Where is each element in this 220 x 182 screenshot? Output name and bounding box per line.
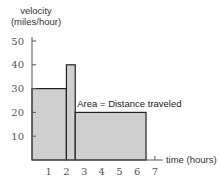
x-axis-label: time (hours): [166, 154, 217, 165]
y-tick-label: 20: [11, 107, 24, 118]
y-tick-label: 50: [11, 36, 24, 47]
y-tick-label: 40: [11, 59, 24, 70]
y-tick-label: 30: [11, 83, 24, 94]
x-tick-label: 7: [152, 166, 158, 177]
velocity-time-chart: 10203040501234567Area = Distance travele…: [0, 0, 220, 182]
x-tick-label: 1: [46, 166, 52, 177]
x-tick-label: 5: [116, 166, 122, 177]
velocity-bar: [75, 112, 146, 160]
x-tick-label: 4: [99, 166, 105, 177]
velocity-bar: [32, 89, 66, 160]
area-annotation: Area = Distance traveled: [77, 98, 181, 109]
y-tick-label: 10: [11, 131, 24, 142]
velocity-bar: [66, 65, 75, 160]
x-tick-label: 6: [134, 166, 140, 177]
x-tick-label: 3: [81, 166, 87, 177]
x-tick-label: 2: [63, 166, 69, 177]
